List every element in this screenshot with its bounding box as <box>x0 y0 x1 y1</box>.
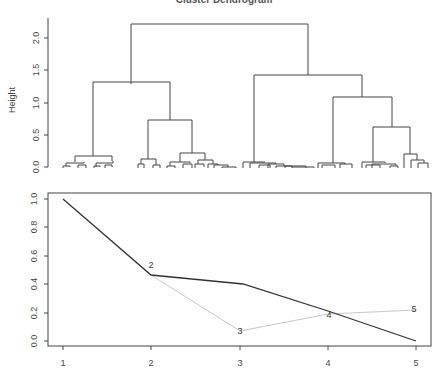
svg-text:2.0: 2.0 <box>31 32 41 45</box>
right-cluster-merge <box>254 75 362 162</box>
svg-text:0.2: 0.2 <box>29 307 39 320</box>
svg-text:0.0: 0.0 <box>31 161 41 174</box>
svg-text:1.0: 1.0 <box>31 97 41 110</box>
svg-text:2: 2 <box>148 358 153 368</box>
series-solid-line <box>63 199 416 341</box>
svg-text:0.6: 0.6 <box>29 250 39 263</box>
point-label-3: 3 <box>237 326 242 336</box>
dendrogram-panel <box>44 18 428 168</box>
left-cluster-merge <box>93 82 170 156</box>
svg-text:0.5: 0.5 <box>31 129 41 142</box>
dendrogram-y-axis-title: Height <box>7 86 17 113</box>
dendrogram-y-tick-labels: 0.0 0.5 1.0 1.5 2.0 <box>31 32 41 174</box>
line-x-tick-labels: 1 2 3 4 5 <box>60 358 418 368</box>
svg-text:0.0: 0.0 <box>29 335 39 348</box>
point-label-2: 2 <box>148 260 153 270</box>
svg-text:0.4: 0.4 <box>29 278 39 291</box>
line-y-tick-labels: 0.0 0.2 0.4 0.6 0.8 1.0 <box>29 193 39 348</box>
line-chart-panel: 2 3 4 5 <box>44 193 431 350</box>
svg-text:4: 4 <box>325 358 330 368</box>
svg-text:1.0: 1.0 <box>29 193 39 206</box>
svg-text:1: 1 <box>60 358 65 368</box>
chart-canvas: 0.0 0.5 1.0 1.5 2.0 Height 2 3 <box>0 0 448 377</box>
svg-text:3: 3 <box>237 358 242 368</box>
point-label-4: 4 <box>326 310 331 320</box>
svg-text:5: 5 <box>413 358 418 368</box>
svg-text:0.8: 0.8 <box>29 221 39 234</box>
series-dotted-line <box>151 275 416 331</box>
point-label-5: 5 <box>411 304 416 314</box>
svg-text:1.5: 1.5 <box>31 64 41 77</box>
plot-frame <box>48 193 431 346</box>
